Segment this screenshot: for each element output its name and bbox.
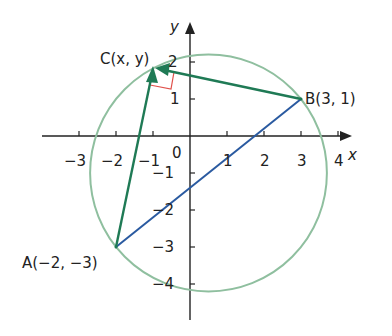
x-tick-label: −3 bbox=[64, 152, 86, 170]
x-axis-arrow-icon bbox=[340, 131, 352, 141]
x-tick-label: 4 bbox=[334, 152, 344, 170]
diagram-canvas: y x 0 −3 −2 −1 1 2 3 4 2 1 −1 −2 −3 −4 C… bbox=[0, 0, 392, 336]
y-tick-label: 1 bbox=[170, 90, 180, 108]
y-tick-label: −4 bbox=[152, 275, 174, 293]
y-tick-label: −3 bbox=[152, 238, 174, 256]
y-tick-label: −2 bbox=[152, 201, 174, 219]
y-ticks bbox=[190, 62, 195, 284]
y-axis-label: y bbox=[169, 18, 180, 36]
chord-AB bbox=[116, 99, 301, 247]
point-B bbox=[300, 98, 303, 101]
x-axis-label: x bbox=[347, 146, 357, 164]
x-ticks bbox=[79, 131, 338, 136]
x-tick-label: 1 bbox=[223, 152, 233, 170]
x-tick-label: 2 bbox=[260, 152, 270, 170]
y-tick-label: −1 bbox=[152, 164, 174, 182]
x-tick-label: 3 bbox=[297, 152, 307, 170]
origin-label: 0 bbox=[172, 144, 182, 162]
vector-BC bbox=[164, 70, 301, 99]
y-tick-label: 2 bbox=[168, 53, 178, 71]
y-axis-arrow-icon bbox=[185, 22, 195, 34]
x-tick-label: −2 bbox=[101, 152, 123, 170]
point-A bbox=[115, 246, 118, 249]
point-A-label: A(−2, −3) bbox=[22, 254, 98, 272]
point-C-label: C(x, y) bbox=[100, 50, 149, 68]
point-B-label: B(3, 1) bbox=[305, 90, 356, 108]
